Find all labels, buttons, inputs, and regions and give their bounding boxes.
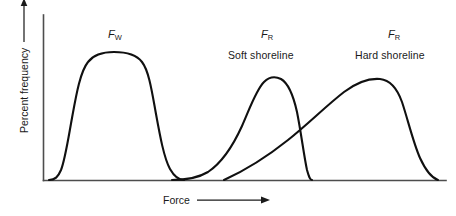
fr-hard-symbol-letter: F [388,28,395,40]
up-arrow-icon [19,0,29,42]
chart-figure: FW FR Soft shoreline FR Hard shoreline P… [0,0,456,216]
fr-hard-symbol-subscript: R [395,33,400,42]
x-axis-label: Force [163,194,190,206]
right-arrow-icon [197,195,271,205]
annotation-fr-soft-symbol: FR [261,29,273,40]
annotation-fr-hard-symbol: FR [388,29,400,40]
y-axis-label-group: Percent frequency [15,0,33,133]
curve-fw [49,52,184,180]
annotation-fw-symbol: FW [108,29,122,40]
x-axis-label-group: Force [163,194,271,206]
fw-symbol-subscript: W [115,33,122,42]
fr-soft-symbol-letter: F [261,28,268,40]
annotation-fr-hard-caption: Hard shoreline [355,50,425,61]
y-axis-label: Percent frequency [18,48,30,133]
curve-fr-soft [172,77,312,180]
fr-soft-symbol-subscript: R [268,33,273,42]
annotation-fr-soft-caption: Soft shoreline [228,50,294,61]
fw-symbol-letter: F [108,28,115,40]
